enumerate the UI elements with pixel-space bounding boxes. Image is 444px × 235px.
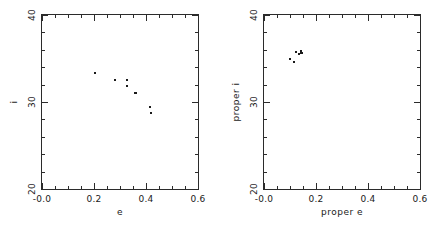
data-point — [135, 92, 137, 94]
x-tick-label: 0.4 — [361, 195, 376, 204]
y-tick-label: 20 — [28, 183, 37, 195]
tick-x — [420, 183, 421, 189]
tick-x — [420, 15, 421, 21]
tick-x — [198, 15, 199, 21]
data-points-right — [264, 15, 420, 189]
plot-frame-left — [41, 14, 199, 190]
x-tick-label: 0.2 — [87, 195, 102, 204]
data-point — [94, 72, 96, 74]
data-point — [289, 58, 291, 60]
data-point — [150, 112, 152, 114]
data-point — [149, 106, 151, 108]
y-tick-label: 30 — [250, 96, 259, 108]
plot-frame-right — [263, 14, 421, 190]
x-tick-label: 0.6 — [191, 195, 206, 204]
y-tick-label: 40 — [28, 9, 37, 21]
x-tick-label: 0.6 — [413, 195, 428, 204]
tick-y — [414, 189, 420, 190]
data-point — [126, 79, 128, 81]
data-points-left — [42, 15, 198, 189]
y-tick-label: 30 — [28, 96, 37, 108]
x-axis-title-left: e — [117, 207, 123, 217]
x-tick-label: 0.2 — [309, 195, 324, 204]
x-tick-label: -0.0 — [33, 195, 51, 204]
x-tick-label: 0.4 — [139, 195, 154, 204]
data-point — [301, 52, 303, 54]
tick-y — [192, 189, 198, 190]
tick-y — [42, 189, 48, 190]
y-axis-title-right: proper i — [231, 82, 241, 121]
y-axis-title-left: i — [9, 100, 19, 103]
y-tick-label: 40 — [250, 9, 259, 21]
data-point — [126, 85, 128, 87]
y-tick-label: 20 — [250, 183, 259, 195]
chart-panel-left: -0.00.20.40.6 203040 e i — [0, 0, 222, 235]
data-point — [293, 61, 295, 63]
figure-canvas: -0.00.20.40.6 203040 e i -0.00.20.40.6 2… — [0, 0, 444, 235]
tick-y — [264, 189, 270, 190]
x-tick-label: -0.0 — [255, 195, 273, 204]
x-axis-title-right: proper e — [321, 207, 363, 217]
tick-x — [198, 183, 199, 189]
data-point — [114, 79, 116, 81]
chart-panel-right: -0.00.20.40.6 203040 proper e proper i — [222, 0, 444, 235]
